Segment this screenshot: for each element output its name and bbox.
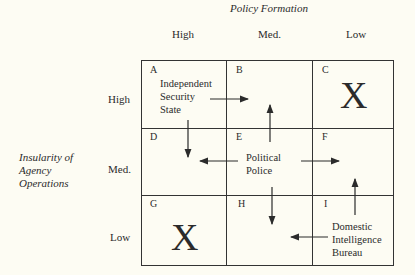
arrows-layer (0, 0, 415, 275)
